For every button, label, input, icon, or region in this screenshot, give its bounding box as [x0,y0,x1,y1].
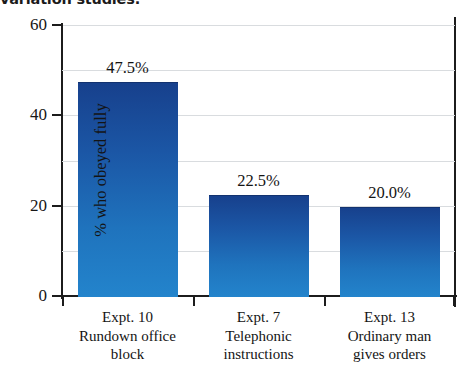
bar-value-label: 22.5% [209,172,309,189]
bar-value-label: 20.0% [340,184,440,201]
bar [340,207,440,297]
y-tick-label: 0 [7,287,47,304]
category-label-line: Expt. 7 [189,308,329,327]
x-tick-mark [453,297,455,306]
category-label-line: Telephonic [189,327,329,346]
x-tick-mark [193,297,195,306]
category-label-line: Rundown office [58,327,198,346]
y-tick-label: 60 [7,16,47,33]
y-axis-title: % who obeyed fully [91,60,111,280]
bar-top-edge [340,207,440,208]
bar [209,195,309,297]
category-label-line: Expt. 13 [320,308,460,327]
category-label-line: instructions [189,345,329,364]
figure: variation studies. 0204060 % who obeyed … [0,0,462,370]
category-label-line: block [58,345,198,364]
x-tick-mark [324,297,326,306]
category-label: Expt. 13Ordinary mangives orders [320,308,460,364]
category-label: Expt. 10Rundown officeblock [58,308,198,364]
category-label-line: Expt. 10 [58,308,198,327]
y-tick-label: 20 [7,197,47,214]
y-tick-label: 40 [7,106,47,123]
x-tick-mark [62,297,64,306]
figure-caption: variation studies. [0,0,462,11]
category-label: Expt. 7Telephonicinstructions [189,308,329,364]
bar-top-edge [209,195,309,196]
category-label-line: gives orders [320,345,460,364]
category-label-line: Ordinary man [320,327,460,346]
bar-value-label: 47.5% [78,59,178,76]
